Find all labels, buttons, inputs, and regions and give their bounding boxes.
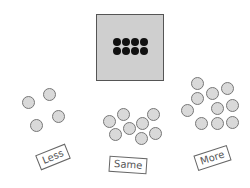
counter-circle [149, 127, 162, 140]
counter-circle [195, 117, 208, 130]
label-same[interactable]: Same [108, 156, 147, 175]
target-dot [131, 47, 139, 55]
target-dot [131, 38, 139, 46]
counter-circle [52, 110, 65, 123]
counter-circle [147, 108, 160, 121]
target-dot [113, 47, 121, 55]
target-dot [140, 38, 148, 46]
counter-circle [181, 104, 194, 117]
counter-circle [117, 108, 130, 121]
counter-circle [123, 122, 136, 135]
target-dot [122, 38, 130, 46]
counter-circle [226, 116, 239, 129]
counter-circle [191, 77, 204, 90]
counter-circle [135, 132, 148, 145]
counter-circle [221, 82, 234, 95]
counter-circle [206, 87, 219, 100]
counter-circle [22, 96, 35, 109]
counter-circle [103, 115, 116, 128]
counter-circle [30, 119, 43, 132]
counter-circle [136, 117, 149, 130]
target-card [96, 14, 164, 81]
counter-circle [211, 102, 224, 115]
counter-circle [43, 88, 56, 101]
label-more[interactable]: More [193, 145, 231, 171]
counter-circle [211, 117, 224, 130]
target-dot [140, 47, 148, 55]
target-dot [113, 38, 121, 46]
counter-circle [226, 99, 239, 112]
counter-circle [191, 92, 204, 105]
label-less[interactable]: Less [35, 144, 71, 171]
counter-circle [109, 128, 122, 141]
target-dot [122, 47, 130, 55]
